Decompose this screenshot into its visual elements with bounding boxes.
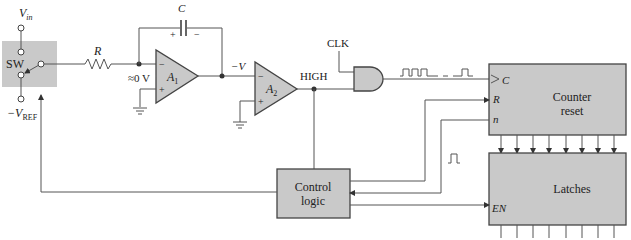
pulse-icon — [448, 154, 460, 163]
virtual-ground-label: ≈0 V — [128, 72, 150, 84]
svg-text:Latches: Latches — [553, 182, 591, 196]
high-label: HIGH — [300, 70, 328, 82]
svg-text:Control: Control — [295, 180, 332, 194]
capacitor-label: C — [178, 2, 186, 14]
latch-outputs — [501, 225, 614, 238]
resistor-label: R — [93, 44, 102, 58]
svg-text:−: − — [258, 71, 264, 82]
svg-text:+: + — [258, 96, 264, 107]
svg-text:−: − — [194, 29, 200, 40]
resistor-icon — [85, 59, 111, 69]
vref-terminal — [18, 96, 24, 102]
clk-label: CLK — [327, 37, 349, 49]
svg-text:EN: EN — [491, 202, 507, 214]
neg-v-label: −V — [231, 60, 246, 72]
svg-text:C: C — [502, 74, 510, 86]
counter-to-latch-arrows — [501, 135, 614, 153]
switch-label: SW — [6, 57, 25, 71]
vin-terminal — [18, 25, 24, 31]
svg-text:n: n — [493, 113, 499, 125]
svg-text:−: − — [159, 59, 165, 70]
clock-pulses-icon — [400, 69, 473, 76]
svg-text:+: + — [159, 84, 165, 95]
svg-text:+: + — [170, 29, 176, 40]
svg-text:reset: reset — [561, 104, 584, 118]
vref-label: −VREF — [7, 106, 38, 122]
svg-text:Counter: Counter — [553, 90, 592, 104]
vin-label: Vin — [19, 6, 33, 22]
and-gate — [354, 67, 383, 91]
svg-text:R: R — [492, 93, 500, 105]
ground-icon — [233, 122, 247, 128]
adc-diagram: Vin SW −VREF R C + − ≈0 V − + A1 −V − + … — [0, 0, 631, 240]
svg-text:logic: logic — [301, 194, 325, 208]
ground-icon — [133, 108, 147, 114]
